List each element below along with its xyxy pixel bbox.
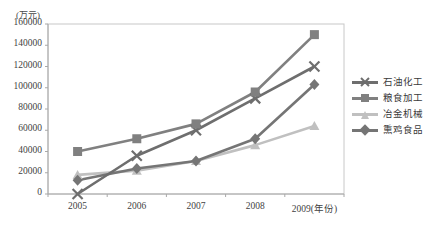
data-point-square (251, 88, 260, 97)
legend-label: 石油化工 (383, 76, 423, 88)
series-line-冶金机械 (78, 126, 315, 175)
series-line-粮食加工 (78, 35, 315, 152)
chart-legend: 石油化工粮食加工冶金机械熏鸡食品 (352, 74, 436, 138)
legend-label: 冶金机械 (383, 108, 423, 120)
legend-label: 粮食加工 (383, 92, 423, 104)
legend-marker-glyph (359, 124, 370, 135)
legend-item-熏鸡食品[interactable]: 熏鸡食品 (352, 122, 436, 138)
legend-marker-glyph (361, 111, 369, 119)
legend-marker-glyph (361, 94, 369, 102)
chart-container: (万元) 02000040000600008000010000012000014… (0, 0, 437, 231)
legend-marker-triangle-icon (352, 108, 378, 120)
data-point-square (310, 30, 319, 39)
legend-marker-x-icon (352, 76, 378, 88)
legend-item-粮食加工[interactable]: 粮食加工 (352, 90, 436, 106)
data-point-x (309, 62, 319, 72)
data-point-x (132, 151, 142, 161)
data-point-square (73, 147, 82, 156)
legend-marker-square-icon (352, 92, 378, 104)
legend-item-冶金机械[interactable]: 冶金机械 (352, 106, 436, 122)
legend-marker-glyph (361, 78, 369, 86)
legend-label: 熏鸡食品 (383, 124, 423, 136)
legend-marker-diamond-icon (352, 124, 378, 136)
data-point-triangle (309, 121, 319, 130)
data-point-square (192, 119, 201, 128)
data-point-square (132, 134, 141, 143)
legend-item-石油化工[interactable]: 石油化工 (352, 74, 436, 90)
